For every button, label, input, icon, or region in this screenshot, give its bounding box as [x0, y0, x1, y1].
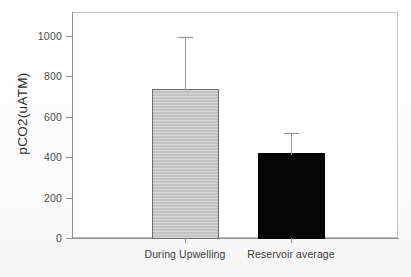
- y-axis-title: pCO2(uATM): [15, 44, 30, 184]
- y-tick-200: [66, 198, 72, 199]
- error-bar-stem-during-upwelling: [185, 37, 186, 90]
- plot-frame: [72, 12, 398, 238]
- bar-reservoir-average: [258, 153, 325, 239]
- y-tick-label-1000-wrap: 1000: [14, 30, 62, 42]
- y-axis-line: [72, 12, 73, 239]
- y-tick-label-1000: 1000: [18, 30, 62, 42]
- y-tick-400: [66, 157, 72, 158]
- error-bar-stem-reservoir-average: [291, 133, 292, 155]
- error-bar-cap-glow-during-upwelling: [175, 36, 196, 39]
- error-bar-cap-glow-reservoir-average: [281, 132, 302, 135]
- x-tick-reservoir-average: [291, 238, 292, 243]
- x-tick-label-reservoir-average: Reservoir average: [216, 248, 366, 260]
- x-axis-line: [72, 238, 399, 239]
- x-tick-during-upwelling: [185, 238, 186, 243]
- y-tick-1000: [66, 36, 72, 37]
- y-tick-label-0-wrap: 0: [14, 232, 62, 244]
- chart-figure: 1000 800 600 400 200 0 pCO2(uATM) During…: [0, 0, 411, 277]
- y-tick-800: [66, 76, 72, 77]
- y-tick-label-0: 0: [18, 232, 62, 244]
- bar-during-upwelling: [152, 89, 219, 239]
- y-tick-label-200-wrap: 200: [14, 192, 62, 204]
- y-tick-600: [66, 117, 72, 118]
- y-tick-label-200: 200: [18, 192, 62, 204]
